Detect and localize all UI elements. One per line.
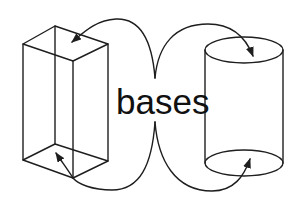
bases-label: bases xyxy=(116,82,209,121)
prism-top-base xyxy=(23,26,108,61)
rectangular-prism xyxy=(23,26,108,178)
arrow-icon xyxy=(155,24,253,78)
arrow-icon xyxy=(72,19,155,78)
prism-bottom-base xyxy=(23,144,108,178)
arrow-icon xyxy=(56,122,155,190)
cylinder xyxy=(205,37,283,176)
arrow-icon xyxy=(155,122,250,191)
bases-diagram: bases xyxy=(0,0,301,199)
